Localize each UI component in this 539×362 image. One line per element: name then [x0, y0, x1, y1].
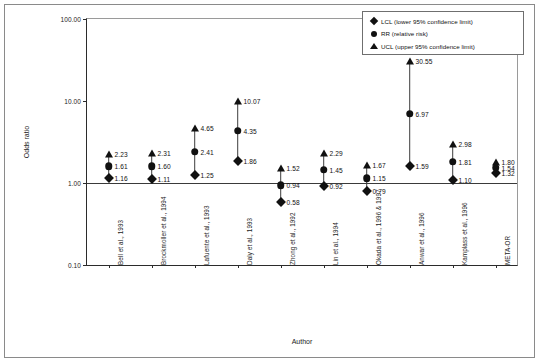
rr-value-label: 1.60 — [158, 163, 171, 170]
x-axis-tick-mark — [496, 265, 497, 268]
lcl-value-label: 1.25 — [201, 172, 214, 179]
lcl-value-label: 1.11 — [158, 176, 171, 183]
x-axis-tick-label: Okada et al., 1996 & 1997 — [369, 189, 381, 265]
legend-item: RR (relative risk) — [367, 28, 519, 41]
x-axis-tick-label: Lin et al., 1994 — [326, 222, 338, 265]
ucl-marker — [234, 97, 242, 104]
rr-value-label: 1.45 — [330, 166, 343, 173]
circle-icon — [367, 31, 381, 37]
ucl-value-label: 1.52 — [287, 165, 300, 172]
rr-value-label: 6.97 — [416, 110, 429, 117]
rr-value-label: 4.35 — [244, 127, 257, 134]
rr-marker — [148, 163, 156, 171]
diamond-icon — [367, 18, 381, 24]
rr-marker — [363, 174, 371, 182]
x-axis-tick-label: Zhong et al., 1992 — [283, 212, 295, 265]
rr-marker — [191, 148, 199, 156]
y-axis-tick-mark — [83, 101, 87, 102]
legend-item-label: LCL (lower 95% confidence limit) — [381, 18, 473, 25]
rr-value-label: 0.94 — [287, 182, 300, 189]
ucl-value-label: 2.98 — [459, 141, 472, 148]
lcl-value-label: 0.58 — [287, 199, 300, 206]
x-axis-tick-label: Daly et al., 1993 — [240, 218, 252, 265]
ucl-marker — [105, 151, 113, 158]
legend-item-label: UCL (upper 95% confidence limit) — [381, 43, 475, 50]
x-axis-tick-label: META-OR — [498, 236, 510, 265]
rr-value-label: 1.15 — [373, 175, 386, 182]
ucl-marker — [406, 58, 414, 65]
y-axis-tick-mark — [83, 19, 87, 20]
ucl-marker — [449, 141, 457, 148]
lcl-value-label: 0.92 — [330, 182, 343, 189]
legend: LCL (lower 95% confidence limit) RR (rel… — [362, 11, 524, 55]
legend-item: UCL (upper 95% confidence limit) — [367, 40, 519, 53]
rr-marker — [406, 110, 414, 118]
ucl-value-label: 30.55 — [416, 58, 433, 65]
lcl-value-label: 1.86 — [244, 157, 257, 164]
lcl-value-label: 1.10 — [459, 176, 472, 183]
ucl-marker — [363, 161, 371, 168]
x-axis-tick-mark — [238, 265, 239, 268]
lcl-marker — [405, 162, 415, 172]
lcl-value-label: 1.32 — [502, 170, 515, 177]
rr-marker — [320, 166, 328, 174]
y-axis-tick-mark — [83, 265, 87, 266]
ucl-value-label: 2.31 — [158, 150, 171, 157]
x-axis-tick-label: Bell et al., 1993 — [111, 220, 123, 265]
lcl-marker — [233, 156, 243, 166]
legend-item: LCL (lower 95% confidence limit) — [367, 15, 519, 28]
ucl-marker — [320, 150, 328, 157]
ucl-marker — [277, 165, 285, 172]
y-axis-title: Odds ratio — [23, 126, 30, 158]
x-axis-tick-mark — [281, 265, 282, 268]
lcl-value-label: 1.59 — [416, 163, 429, 170]
x-axis-title: Author — [86, 338, 518, 345]
x-axis-tick-mark — [324, 265, 325, 268]
ucl-value-label: 2.29 — [330, 150, 343, 157]
rr-marker — [105, 162, 113, 170]
x-axis-tick-label: Anwar et al., 1996 — [412, 212, 424, 265]
lcl-value-label: 1.16 — [115, 174, 128, 181]
rr-marker — [277, 181, 285, 189]
x-axis-tick-label: Brockmoller et al., 1994 — [154, 196, 166, 265]
x-axis-tick-mark — [152, 265, 153, 268]
x-axis-tick-label: Lafuente et al., 1993 — [197, 205, 209, 265]
x-axis-tick-mark — [109, 265, 110, 268]
ucl-value-label: 1.67 — [373, 161, 386, 168]
plot-area: 100.0010.001.000.10 2.231.611.16Bell et … — [86, 18, 518, 266]
rr-marker — [449, 158, 457, 166]
lcl-marker — [190, 170, 200, 180]
rr-marker — [234, 127, 242, 135]
rr-value-label: 1.61 — [115, 163, 128, 170]
ucl-marker — [191, 125, 199, 132]
ucl-value-label: 10.07 — [244, 97, 261, 104]
rr-value-label: 1.81 — [459, 158, 472, 165]
figure-root: Odds ratio Author 100.0010.001.000.10 2.… — [0, 0, 539, 362]
rr-value-label: 2.41 — [201, 148, 214, 155]
lcl-marker — [104, 173, 114, 183]
ucl-marker — [148, 150, 156, 157]
x-axis-tick-mark — [453, 265, 454, 268]
legend-item-label: RR (relative risk) — [381, 30, 428, 37]
x-axis-tick-label: Kamplass et al., 1996 — [455, 202, 467, 265]
triangle-icon — [367, 43, 381, 49]
lcl-marker — [276, 197, 286, 207]
x-axis-tick-mark — [410, 265, 411, 268]
ucl-value-label: 4.65 — [201, 125, 214, 132]
x-axis-tick-mark — [367, 265, 368, 268]
ucl-value-label: 2.23 — [115, 151, 128, 158]
x-axis-tick-mark — [195, 265, 196, 268]
